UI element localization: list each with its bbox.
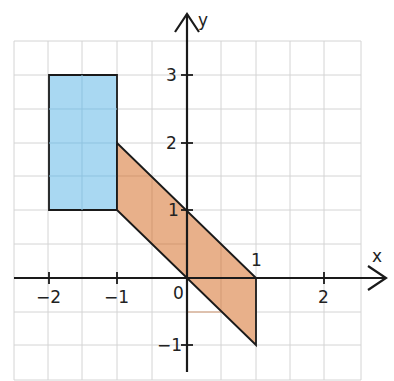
x-axis-label: x [372,246,382,266]
x-tick-label-2: 2 [318,287,329,307]
y-tick-label-neg1: −1 [157,335,182,355]
y-tick-label-2: 2 [166,133,177,153]
x-tick-label-neg1: −1 [104,287,129,307]
y-tick-label-1: 1 [168,200,179,220]
y-tick-label-3: 3 [166,65,177,85]
coordinate-plane: y x −2 −1 2 3 2 1 −1 0 1 [0,0,394,381]
y-axis-label: y [198,10,208,30]
origin-label: 0 [173,283,184,303]
point-label-1: 1 [251,250,262,270]
x-tick-label-neg2: −2 [36,287,61,307]
